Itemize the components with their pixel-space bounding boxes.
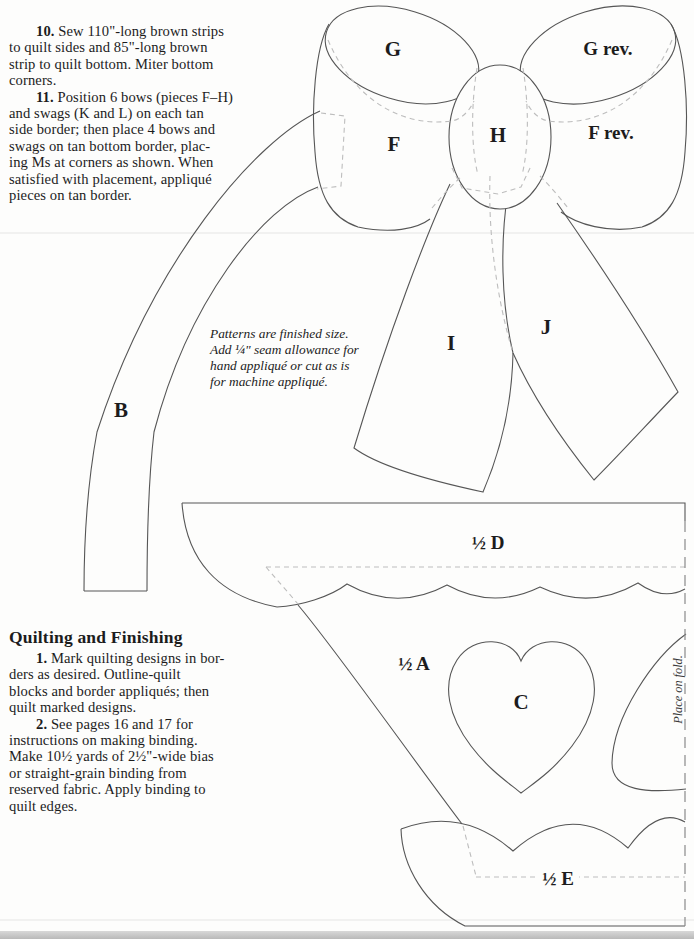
finishing-step-2-line: Make 10½ yards of 2½"-wide bias — [9, 748, 243, 764]
step-11-line: side border; then place 4 bows and — [9, 121, 243, 137]
scan-fold-line-upper — [0, 232, 694, 234]
pattern-book-page: 10. Sew 110"-long brown strips to quilt … — [0, 0, 694, 939]
label-piece-h: H — [490, 123, 506, 148]
b-end-hidden-tab — [317, 113, 345, 189]
quilting-finishing-section: Quilting and Finishing 1. Mark quilting … — [9, 627, 243, 814]
label-piece-half-e: ½ E — [537, 868, 579, 890]
piece-a-basket-edge — [298, 605, 462, 824]
piece-g-rev-loop-outline — [508, 0, 687, 121]
knot-right-fold — [522, 68, 527, 175]
finishing-step-1-line: 1. Mark quilting designs in bor- — [9, 650, 243, 666]
step-11-line: swags on tan bottom border, plac- — [9, 138, 243, 154]
label-piece-i: I — [447, 331, 455, 356]
dashed-seam-lines — [317, 40, 672, 353]
step-10-line: 10. Sew 110"-long brown strips — [9, 23, 243, 39]
step-number: 10. — [36, 23, 55, 39]
i-tail-hidden-edge — [490, 176, 513, 353]
label-piece-g: G — [385, 37, 401, 62]
finishing-step-2-line: 2. See pages 16 and 17 for — [9, 716, 243, 732]
piece-j-tail-outline — [503, 191, 678, 480]
label-piece-b: B — [114, 398, 128, 423]
finishing-step-2-line: reserved fabric. Apply binding to — [9, 781, 243, 797]
step-11-line: ing Ms at corners as shown. When — [9, 154, 243, 170]
border-dashed-lines — [266, 567, 685, 877]
piece-f-loop-outline — [314, 24, 430, 230]
piece-c-heart-outline — [449, 642, 595, 793]
a-hidden-edge-under-e — [463, 826, 476, 876]
section-heading: Quilting and Finishing — [9, 627, 243, 647]
label-piece-f-rev: F rev. — [588, 122, 633, 144]
label-piece-c: C — [513, 690, 528, 715]
piece-d-swag-outline — [182, 503, 685, 607]
label-piece-half-a: ½ A — [398, 653, 430, 675]
piece-g-loop-outline — [313, 0, 490, 121]
border-pieces-solid — [182, 503, 686, 926]
step-10-line: strip to quilt bottom. Miter bottom — [9, 56, 243, 72]
step-number: 2. — [36, 716, 47, 732]
left-tail-hidden-top — [432, 176, 462, 208]
label-piece-j: J — [541, 315, 552, 340]
label-piece-g-rev: G rev. — [583, 38, 632, 60]
right-tail-hidden-top — [540, 176, 568, 208]
label-piece-f: F — [388, 132, 401, 157]
step-number: 1. — [36, 650, 47, 666]
label-piece-half-d: ½ D — [472, 532, 505, 554]
scan-fold-line-lower — [0, 919, 694, 921]
place-on-fold-note: Place on fold. — [671, 635, 686, 745]
step-10-line: corners. — [9, 72, 243, 88]
step-11-line: 11. Position 6 bows (pieces F–H) — [9, 89, 243, 105]
finishing-step-1-line: quilt marked designs. — [9, 699, 243, 715]
finishing-step-2-line: quilt edges. — [9, 798, 243, 814]
finishing-step-1-line: ders as desired. Outline-quilt — [9, 666, 243, 682]
finishing-step-2-line: instructions on making binding. — [9, 732, 243, 748]
step-number: 11. — [36, 89, 54, 105]
knot-left-fold — [473, 68, 478, 175]
pattern-size-note: Patterns are finished size. Add ¼" seam … — [210, 326, 359, 390]
knot-bottom-fold — [452, 166, 531, 194]
piece-i-tail-outline — [354, 184, 513, 492]
step-11-line: satisfied with placement, appliqué — [9, 171, 243, 187]
step-10-line: to quilt sides and 85"-long brown — [9, 39, 243, 55]
finishing-step-2-line: or straight-grain binding from — [9, 765, 243, 781]
finishing-step-1-line: blocks and border appliqués; then — [9, 683, 243, 699]
a-hidden-edge-under-d — [266, 567, 298, 604]
step-11-line: and swags (K and L) on each tan — [9, 105, 243, 121]
step-11-line: pieces on tan border. — [9, 187, 243, 203]
scan-page-edge — [0, 931, 694, 939]
instructions-steps-10-11: 10. Sew 110"-long brown strips to quilt … — [9, 23, 243, 203]
